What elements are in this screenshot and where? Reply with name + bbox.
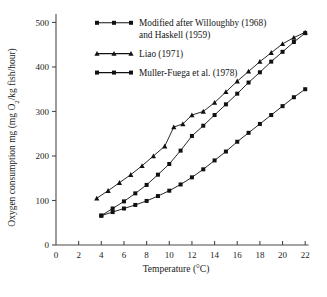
y-tick-label: 100	[36, 196, 50, 206]
series-marker-1	[162, 144, 167, 149]
legend-marker-0	[112, 21, 116, 25]
series-marker-2	[122, 207, 126, 211]
series-marker-2	[247, 131, 251, 135]
series-marker-0	[292, 40, 296, 44]
x-tick-label: 10	[165, 250, 175, 260]
series-marker-2	[281, 104, 285, 108]
y-tick-label: 200	[36, 151, 50, 161]
series-marker-1	[106, 188, 111, 193]
legend-label-0: Modified after Willoughby (1968)	[139, 18, 266, 29]
legend-marker-2	[112, 71, 116, 75]
series-marker-1	[291, 35, 296, 40]
series-marker-0	[213, 113, 217, 117]
series-marker-2	[213, 158, 217, 162]
series-marker-2	[99, 214, 103, 218]
x-axis-title: Temperature (°C)	[143, 264, 210, 275]
legend-marker-2	[129, 71, 133, 75]
y-tick-label: 400	[36, 62, 50, 72]
series-marker-0	[247, 81, 251, 85]
y-tick-label: 500	[36, 18, 50, 28]
x-tick-label: 4	[99, 250, 104, 260]
series-marker-2	[190, 175, 194, 179]
series-marker-0	[122, 199, 126, 203]
series-marker-1	[94, 196, 99, 201]
legend-label-2: Muller-Fuega et al. (1978)	[139, 68, 237, 79]
series-marker-0	[235, 92, 239, 96]
series-marker-0	[281, 50, 285, 54]
series-marker-0	[133, 191, 137, 195]
series-marker-2	[133, 203, 137, 207]
series-marker-2	[167, 189, 171, 193]
legend-marker-0	[95, 21, 99, 25]
chart-container: 01002003004005000246810121416182022Tempe…	[0, 0, 327, 297]
series-line-2	[101, 89, 305, 215]
y-tick-label: 0	[45, 240, 50, 250]
x-tick-label: 14	[210, 250, 220, 260]
series-marker-2	[235, 140, 239, 144]
series-marker-2	[156, 194, 160, 198]
series-marker-2	[258, 122, 262, 126]
series-marker-2	[179, 182, 183, 186]
x-tick-label: 2	[76, 250, 81, 260]
series-marker-0	[179, 149, 183, 153]
x-tick-label: 22	[301, 250, 310, 260]
series-marker-0	[258, 70, 262, 74]
series-marker-2	[224, 150, 228, 154]
series-marker-1	[117, 180, 122, 185]
x-tick-label: 18	[255, 250, 265, 260]
series-marker-2	[269, 113, 273, 117]
x-tick-label: 16	[233, 250, 243, 260]
x-tick-label: 12	[187, 250, 196, 260]
series-marker-2	[111, 210, 115, 214]
y-axis-title: Oxygen consumption mg (mg O2/kg fish/hou…	[7, 48, 21, 226]
series-marker-0	[111, 207, 115, 211]
series-marker-2	[145, 199, 149, 203]
series-marker-0	[145, 183, 149, 187]
series-marker-0	[167, 162, 171, 166]
legend-marker-0	[129, 21, 133, 25]
series-marker-1	[280, 41, 285, 46]
series-marker-0	[224, 102, 228, 106]
legend-label-secondline-0: and Haskell (1959)	[139, 30, 210, 41]
series-marker-0	[269, 60, 273, 64]
x-tick-label: 8	[144, 250, 149, 260]
x-tick-label: 20	[278, 250, 288, 260]
series-marker-2	[201, 167, 205, 171]
y-tick-label: 300	[36, 107, 50, 117]
series-marker-2	[292, 95, 296, 99]
series-marker-2	[303, 87, 307, 91]
series-line-1	[97, 32, 305, 198]
series-marker-0	[156, 173, 160, 177]
x-tick-label: 6	[122, 250, 127, 260]
legend-label-1: Liao (1971)	[139, 49, 183, 60]
oxygen-consumption-line-chart: 01002003004005000246810121416182022Tempe…	[0, 0, 327, 297]
x-tick-label: 0	[54, 250, 59, 260]
series-marker-0	[190, 134, 194, 138]
series-marker-0	[201, 124, 205, 128]
legend-marker-2	[95, 71, 99, 75]
